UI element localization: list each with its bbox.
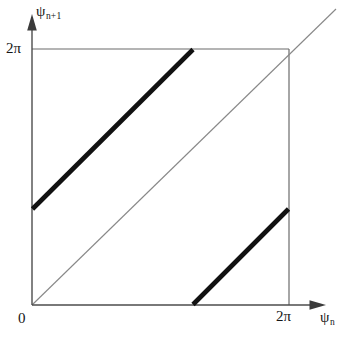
y-axis-label-subscript: n+1 — [46, 11, 61, 21]
y-axis-label-symbol: ψ — [36, 3, 45, 19]
map-branch-lower — [193, 209, 289, 305]
plot-canvas — [0, 0, 348, 352]
identity-line — [32, 9, 336, 305]
y-axis-label: ψn+1 — [36, 4, 61, 19]
map-branch-upper — [33, 50, 194, 210]
x-axis-label-subscript: n — [330, 317, 335, 327]
figure-container: ψn+1 ψn 2π 2π 0 — [0, 0, 348, 352]
x-axis-label-symbol: ψ — [320, 309, 329, 325]
x-axis-tick-label-2pi: 2π — [276, 309, 291, 324]
origin-tick-label-0: 0 — [18, 311, 26, 326]
x-axis-label: ψn — [320, 310, 334, 325]
y-axis-tick-label-2pi: 2π — [6, 41, 21, 56]
